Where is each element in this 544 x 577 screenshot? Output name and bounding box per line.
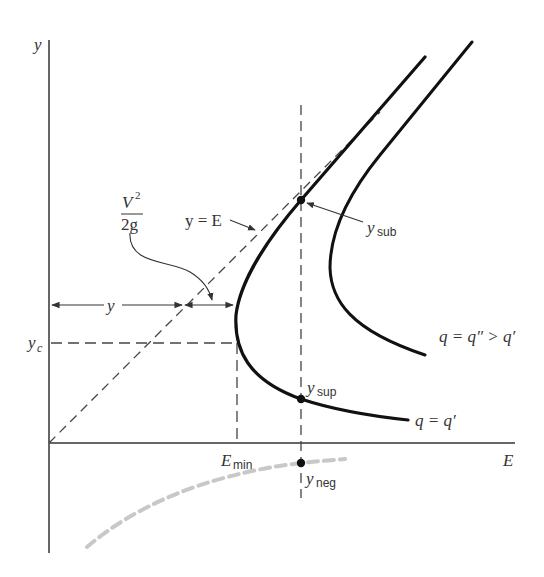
velocity-head-leader (130, 233, 212, 300)
y-neg-label: y neg (304, 469, 336, 490)
y-axis-label: y (32, 35, 42, 54)
svg-text:y: y (305, 378, 315, 397)
specific-energy-diagram: y E y V 2 2g y = E y (0, 0, 544, 577)
svg-text:y: y (304, 469, 314, 488)
svg-text:E: E (220, 451, 232, 470)
e-axis-label: E (502, 451, 514, 470)
y-c-label: y c (26, 333, 43, 355)
y-sup-label: y sup (305, 378, 337, 399)
svg-text:V: V (122, 193, 135, 212)
svg-text:y: y (26, 333, 36, 352)
e-min-label: E min (220, 451, 252, 472)
curve-q-double-prime (330, 42, 472, 355)
y-equals-e-annotation: y = E (185, 211, 255, 230)
svg-text:neg: neg (316, 476, 336, 490)
svg-text:min: min (233, 458, 252, 472)
velocity-head-label: V 2 2g (121, 189, 143, 234)
y-sup-point (297, 395, 305, 403)
curve-q-prime (236, 57, 425, 420)
svg-text:y: y (365, 218, 375, 237)
svg-text:c: c (37, 341, 43, 355)
svg-text:y = E: y = E (185, 211, 222, 230)
curve-q-prime-label: q = q′ (415, 411, 456, 430)
axes: y E (32, 35, 515, 553)
depth-y-label: y (105, 296, 115, 315)
velocity-head-dimension (130, 233, 233, 305)
svg-text:sup: sup (317, 385, 337, 399)
svg-text:2g: 2g (121, 215, 139, 234)
y-sub-annotation: y sub (307, 203, 397, 239)
y-neg-point (297, 459, 305, 467)
curve-q-double-prime-label: q = q″ > q′ (439, 327, 516, 346)
svg-text:sub: sub (377, 225, 397, 239)
y-sub-point (297, 196, 305, 204)
depth-dimension: y (52, 296, 182, 315)
svg-text:2: 2 (135, 189, 141, 201)
